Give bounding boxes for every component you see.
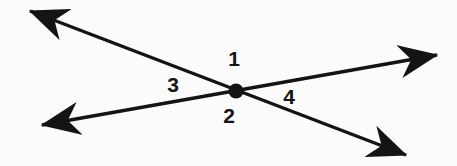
angle-label-1: 1 [228,48,240,69]
angle-label-4: 4 [283,86,295,107]
line-group [30,11,437,155]
angle-diagram-figure: 1 2 3 4 [0,0,457,166]
line-upper-left-to-lower-right [30,11,406,155]
angle-label-3: 3 [167,74,179,95]
intersection-point [229,84,244,99]
angle-label-2: 2 [223,105,235,126]
diagram-canvas [0,0,457,166]
